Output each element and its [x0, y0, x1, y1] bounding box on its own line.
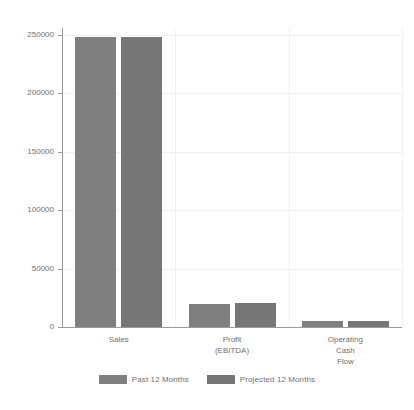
gridline-vertical — [175, 28, 176, 327]
y-axis-tick-label: 100000 — [0, 206, 54, 214]
y-axis-tick-mark — [58, 35, 62, 36]
gridline-vertical — [289, 28, 290, 327]
bar — [189, 304, 230, 327]
legend-label: Projected 12 Months — [240, 375, 315, 384]
y-axis-tick-label: 0 — [0, 323, 54, 331]
legend-item[interactable]: Past 12 Months — [99, 375, 189, 384]
bar — [75, 37, 116, 327]
y-axis-tick-label: 50000 — [0, 265, 54, 273]
gridline-horizontal — [62, 35, 402, 36]
legend-label: Past 12 Months — [132, 375, 189, 384]
legend-item[interactable]: Projected 12 Months — [207, 375, 315, 384]
y-axis-tick-mark — [58, 210, 62, 211]
y-axis-tick-label: 150000 — [0, 148, 54, 156]
category-label: Sales — [62, 334, 175, 345]
y-axis-tick-mark — [58, 327, 62, 328]
y-axis-tick-label: 200000 — [0, 89, 54, 97]
chart-legend: Past 12 MonthsProjected 12 Months — [0, 375, 414, 384]
bar — [302, 321, 343, 327]
bar — [121, 37, 162, 327]
category-label: Profit (EBITDA) — [175, 334, 288, 356]
legend-swatch-icon — [99, 375, 127, 384]
y-axis-line — [62, 28, 63, 328]
bar-chart: 050000100000150000200000250000 SalesProf… — [0, 0, 414, 410]
category-label: Operating Cash Flow — [289, 334, 402, 367]
gridline-vertical — [402, 28, 403, 327]
bar — [348, 321, 389, 327]
legend-swatch-icon — [207, 375, 235, 384]
y-axis-tick-mark — [58, 269, 62, 270]
bar — [235, 303, 276, 327]
y-axis-tick-label: 250000 — [0, 31, 54, 39]
x-axis-line — [62, 327, 402, 328]
y-axis-tick-mark — [58, 152, 62, 153]
y-axis-tick-mark — [58, 93, 62, 94]
